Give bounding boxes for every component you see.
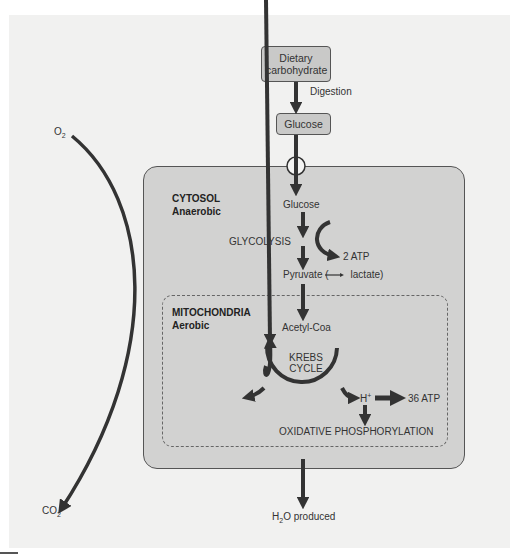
krebs-arrow-out-right: [342, 388, 354, 398]
atp-glycolysis-arrow: [317, 222, 334, 256]
krebs-arrow-out-left: [248, 388, 264, 397]
pathway-arrows: [0, 0, 526, 559]
krebs-cycle-arc: [267, 346, 337, 382]
gas-exchange-arrow: [62, 136, 135, 508]
